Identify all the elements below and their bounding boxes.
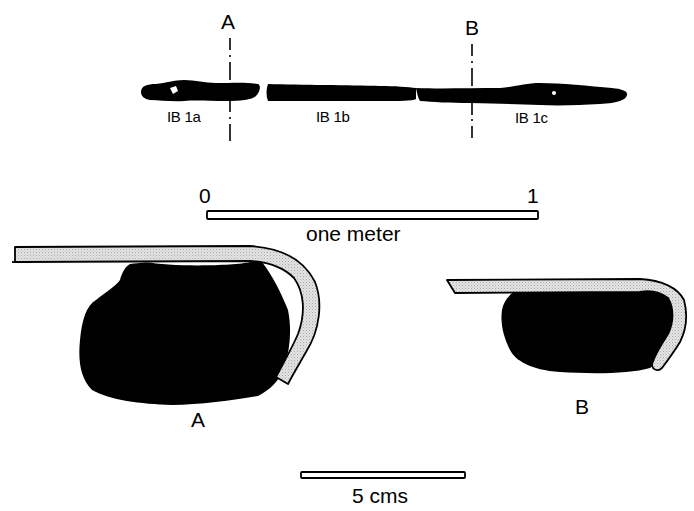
- cm-scale-caption: 5 cms: [352, 485, 408, 506]
- meter-scale-start-label: 0: [199, 185, 211, 206]
- section-a-drawing: [12, 246, 319, 405]
- section-marker-a-label: A: [221, 11, 235, 32]
- meter-scale-caption: one meter: [306, 223, 401, 244]
- piece-label-ib1a: IB 1a: [167, 109, 201, 124]
- figure-drawing: [0, 0, 694, 511]
- section-a-caption: A: [191, 409, 205, 430]
- fragment-ib1b: [267, 84, 417, 101]
- meter-scale-end-label: 1: [527, 185, 539, 206]
- cm-scale-bar: [301, 472, 465, 478]
- artifact-figure: A B IB 1a IB 1b IB 1c 0 1 one meter A B …: [0, 0, 694, 511]
- section-b-caption: B: [575, 396, 589, 417]
- fragment-ib1a: [141, 80, 260, 101]
- piece-label-ib1b: IB 1b: [316, 109, 350, 124]
- piece-label-ib1c: IB 1c: [515, 110, 548, 125]
- fragment-ib1c: [416, 83, 627, 105]
- perforation-hole: [552, 91, 556, 95]
- section-marker-b-label: B: [465, 17, 479, 38]
- section-b-drawing: [447, 266, 686, 373]
- meter-scale-bar: [207, 211, 538, 219]
